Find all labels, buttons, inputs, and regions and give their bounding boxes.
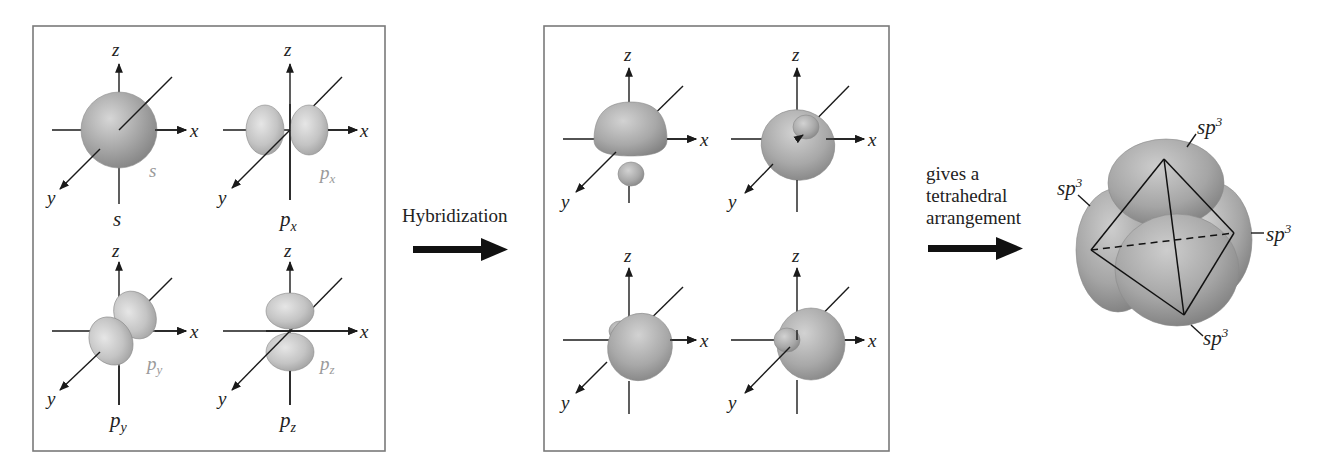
tetrahedral-arrow: gives a tetrahedral arrangement (926, 163, 1023, 260)
x-axis-label: x (699, 129, 709, 150)
leader-bottom (1191, 325, 1203, 336)
hybridization-arrow: Hybridization (402, 205, 508, 261)
x-axis-label: x (699, 330, 709, 351)
x-axis-label: x (867, 330, 877, 351)
px-lobe-positive (290, 105, 328, 155)
arrow-head-icon (996, 237, 1023, 260)
major-lobe (594, 102, 667, 156)
z-axis-label: z (623, 245, 632, 266)
arrow-shaft (413, 246, 483, 253)
z-axis-label: z (283, 240, 292, 261)
x-axis-label: x (189, 321, 199, 342)
z-axis-label: z (283, 39, 292, 60)
arrow-head-icon (481, 238, 508, 261)
z-axis-label: z (791, 245, 800, 266)
leader-left (1078, 195, 1090, 206)
minor-lobe (774, 328, 800, 352)
pz-lobe-bottom (266, 333, 314, 371)
hybridization-diagram: z x y s s z x y px px (0, 0, 1328, 470)
sp3-label-right: sp3 (1266, 221, 1292, 246)
atomic-orbitals-panel: z x y s s z x y px px (33, 26, 385, 451)
sp3-label-top: sp3 (1197, 114, 1223, 139)
hybrid-orbitals-panel: z x y z x y z (544, 26, 889, 451)
y-axis-label: y (45, 187, 56, 208)
y-axis-label: y (216, 388, 227, 409)
sp3-label-bottom: sp3 (1203, 325, 1229, 350)
x-axis-label: x (867, 129, 877, 150)
hybrid-orbitals-frame (544, 26, 889, 451)
sp3-lobe-top (1108, 139, 1224, 227)
s-caption: s (113, 207, 121, 231)
minor-lobe (618, 162, 644, 186)
y-axis-label: y (559, 191, 570, 212)
y-axis-label: y (726, 392, 737, 413)
y-axis-label: y (559, 392, 570, 413)
caption-line-2: tetrahedral (926, 185, 1007, 206)
x-axis-label: x (359, 321, 369, 342)
tetrahedral-sp3-orbitals: sp3 sp3 sp3 sp3 (1057, 114, 1292, 350)
y-axis-label: y (726, 191, 737, 212)
minor-lobe (793, 115, 819, 139)
y-axis-label: y (216, 187, 227, 208)
s-inner-label: s (149, 160, 156, 181)
px-lobe-negative (246, 105, 284, 155)
z-axis-label: z (791, 44, 800, 65)
z-axis-label: z (111, 39, 120, 60)
z-axis-label: z (623, 44, 632, 65)
caption-line-3: arrangement (926, 207, 1022, 228)
atomic-orbitals-frame (33, 26, 385, 451)
caption-line-1: gives a (926, 163, 980, 184)
hybridization-label: Hybridization (402, 205, 508, 226)
x-axis-label: x (359, 120, 369, 141)
z-axis-label: z (111, 240, 120, 261)
y-axis-label: y (45, 388, 56, 409)
pz-lobe-top (266, 293, 314, 329)
arrow-shaft (928, 245, 998, 252)
x-axis-label: x (189, 120, 199, 141)
